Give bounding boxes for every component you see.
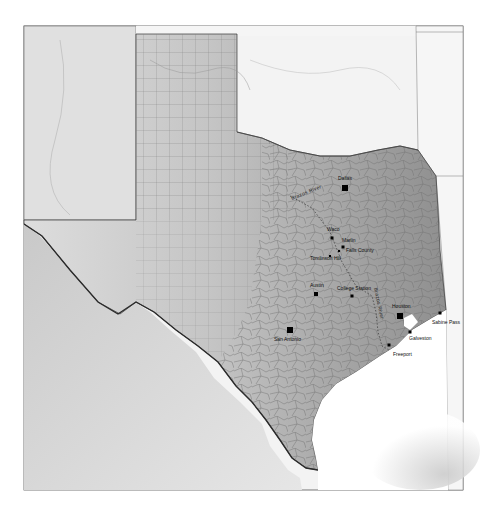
city-marker xyxy=(439,312,442,315)
city-label: Houston xyxy=(392,303,411,309)
city-label: Tomlinson Hill xyxy=(310,255,341,261)
city-marker xyxy=(314,292,318,296)
city-marker xyxy=(351,295,354,298)
city-label: San Antonio xyxy=(274,336,301,342)
city-marker xyxy=(342,185,348,191)
city-label: Sabine Pass xyxy=(432,319,461,325)
city-tomlinson-hill[interactable]: Tomlinson Hill xyxy=(310,255,341,261)
city-marker xyxy=(331,237,334,240)
city-label: Galveston xyxy=(409,335,432,341)
city-label: Austin xyxy=(310,282,324,288)
texas-map: Dallas Waco Marlin Falls County Tomlinso… xyxy=(0,0,485,513)
new-mexico-region xyxy=(24,26,136,220)
city-label: Dallas xyxy=(338,175,352,181)
city-label: Falls County xyxy=(346,247,374,253)
city-label: College Station xyxy=(337,285,371,291)
city-marker xyxy=(388,344,391,347)
city-marker xyxy=(409,331,412,334)
city-marker xyxy=(338,250,340,252)
city-marker xyxy=(342,246,345,249)
city-marker xyxy=(397,313,403,319)
city-label: Marlin xyxy=(342,237,356,243)
city-marker xyxy=(287,327,293,333)
gulf-depth-shading xyxy=(360,410,480,490)
city-label: Waco xyxy=(327,226,340,232)
city-label: Freeport xyxy=(393,351,413,357)
